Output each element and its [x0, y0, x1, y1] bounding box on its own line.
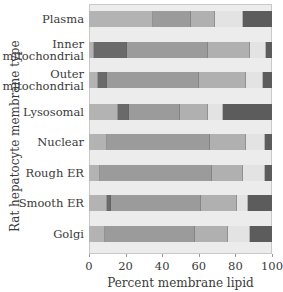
- bar-segment: [243, 165, 265, 181]
- bar-segment: [107, 134, 209, 150]
- x-tick-mark: [235, 254, 236, 257]
- bar-segment: [195, 226, 228, 242]
- category-label: Golgi: [53, 228, 84, 240]
- bar-inner-mitochondrial: [89, 42, 272, 58]
- bar-segment: [94, 42, 127, 58]
- bar-segment: [237, 195, 248, 211]
- bar-segment: [191, 11, 215, 27]
- category-label: Plasma: [42, 13, 84, 25]
- x-tick-mark: [272, 254, 273, 257]
- bar-segment: [210, 134, 247, 150]
- x-tick-label: 20: [111, 259, 141, 273]
- category-label: Lysosomal: [23, 106, 84, 118]
- category-label: Smooth ER: [19, 197, 84, 209]
- stacked-bar-chart: PlasmaInnermitochondrialOutermitochondri…: [0, 0, 283, 292]
- bar-nuclear: [89, 134, 272, 150]
- x-tick-mark: [162, 254, 163, 257]
- bar-segment: [212, 165, 243, 181]
- x-tick-label: 0: [74, 259, 104, 273]
- bar-segment: [107, 72, 199, 88]
- y-axis-label: Rat hepatocyte membrane type: [8, 42, 22, 232]
- bar-segment: [250, 226, 272, 242]
- bar-segment: [98, 72, 107, 88]
- bar-lysosomal: [89, 104, 272, 120]
- x-tick-label: 40: [147, 259, 177, 273]
- x-tick-label: 80: [220, 259, 250, 273]
- bar-smooth-er: [89, 195, 272, 211]
- bar-segment: [199, 72, 247, 88]
- bar-segment: [246, 72, 262, 88]
- bar-segment: [265, 134, 272, 150]
- bar-segment: [201, 195, 238, 211]
- bar-segment: [89, 11, 153, 27]
- bar-segment: [153, 11, 191, 27]
- bar-segment: [208, 42, 250, 58]
- bar-segment: [215, 11, 242, 27]
- bar-segment: [118, 104, 129, 120]
- bar-segment: [180, 104, 207, 120]
- bar-segment: [89, 195, 107, 211]
- bar-segment: [129, 104, 180, 120]
- category-label: Nuclear: [37, 136, 84, 148]
- x-tick-label: 60: [184, 259, 214, 273]
- category-label: Rough ER: [26, 167, 84, 179]
- x-tick-mark: [89, 254, 90, 257]
- bar-segment: [111, 195, 201, 211]
- bar-outer-mitochondrial: [89, 72, 272, 88]
- bar-segment: [89, 104, 118, 120]
- bar-segment: [208, 104, 223, 120]
- bar-rough-er: [89, 165, 272, 181]
- bar-segment: [89, 72, 98, 88]
- bar-segment: [263, 72, 272, 88]
- bar-segment: [89, 165, 100, 181]
- bar-segment: [127, 42, 208, 58]
- bar-golgi: [89, 226, 272, 242]
- x-tick-mark: [199, 254, 200, 257]
- x-tick-label: 100: [257, 259, 283, 273]
- bar-plasma: [89, 11, 272, 27]
- bar-segment: [265, 165, 272, 181]
- bar-segment: [243, 11, 272, 27]
- bar-segment: [223, 104, 272, 120]
- bar-segment: [89, 134, 107, 150]
- bar-segment: [105, 226, 195, 242]
- bar-segment: [228, 226, 250, 242]
- bar-segment: [250, 42, 266, 58]
- bar-segment: [266, 42, 271, 58]
- x-axis-label: Percent membrane lipid: [89, 276, 272, 290]
- x-tick-mark: [126, 254, 127, 257]
- bar-segment: [100, 165, 212, 181]
- bar-segment: [89, 226, 105, 242]
- bar-segment: [246, 134, 264, 150]
- bar-segment: [248, 195, 272, 211]
